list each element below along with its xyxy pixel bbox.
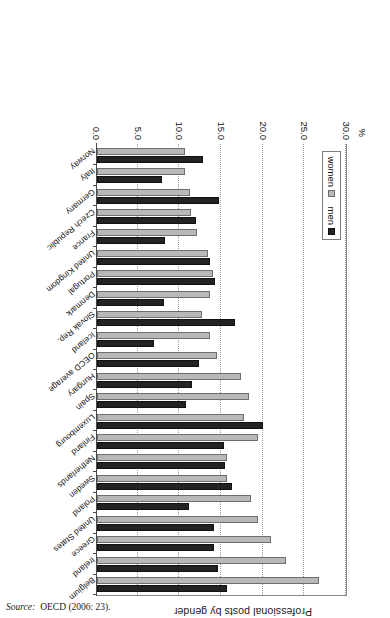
bar-women bbox=[97, 373, 241, 380]
bar-group bbox=[97, 309, 347, 329]
category-label: Italy bbox=[79, 166, 97, 184]
bar-group bbox=[97, 554, 347, 574]
bar-men bbox=[97, 217, 196, 224]
chart-figure: Professional posts by gender NorwayItaly… bbox=[0, 0, 390, 618]
bar-group bbox=[97, 390, 347, 410]
bar-men bbox=[97, 442, 225, 449]
bar-men bbox=[97, 278, 215, 285]
bar-group bbox=[97, 145, 347, 165]
bar-men bbox=[97, 462, 225, 469]
legend-swatch-women bbox=[328, 190, 335, 197]
bar-group bbox=[97, 227, 347, 247]
bar-men bbox=[97, 237, 165, 244]
bar-women bbox=[97, 189, 190, 196]
bars-area bbox=[97, 145, 347, 595]
bar-men bbox=[97, 299, 164, 306]
value-tick-label: 25.0 bbox=[299, 122, 310, 141]
bar-men bbox=[97, 156, 203, 163]
bar-men bbox=[97, 585, 227, 592]
bar-women bbox=[97, 414, 245, 421]
bar-women bbox=[97, 270, 213, 277]
bar-men bbox=[97, 340, 154, 347]
legend-label: men bbox=[326, 207, 337, 225]
bar-men bbox=[97, 258, 210, 265]
bar-women bbox=[97, 291, 210, 298]
bar-men bbox=[97, 197, 220, 204]
value-tick-label: 10.0 bbox=[174, 122, 185, 141]
source-value: OECD (2006: 23). bbox=[35, 602, 110, 612]
bar-women bbox=[97, 250, 208, 257]
value-tick-label: 0.0 bbox=[91, 127, 102, 140]
bar-women bbox=[97, 311, 202, 318]
source-label: Source: bbox=[6, 602, 35, 612]
bar-group bbox=[97, 329, 347, 349]
bar-women bbox=[97, 516, 258, 523]
bar-group bbox=[97, 268, 347, 288]
bar-women bbox=[97, 495, 251, 502]
bar-group bbox=[97, 411, 347, 431]
bar-women bbox=[97, 168, 185, 175]
value-axis-tick-labels: 0.05.010.015.020.025.030.0 bbox=[97, 94, 347, 140]
rotated-figure-container: Professional posts by gender NorwayItaly… bbox=[0, 0, 390, 618]
bar-men bbox=[97, 381, 192, 388]
bar-women bbox=[97, 209, 191, 216]
bar-group bbox=[97, 472, 347, 492]
bar-group bbox=[97, 350, 347, 370]
value-tick-label: 30.0 bbox=[341, 122, 352, 141]
bar-women bbox=[97, 434, 258, 441]
bar-women bbox=[97, 557, 286, 564]
unit-label: % bbox=[357, 129, 368, 137]
bar-men bbox=[97, 319, 235, 326]
bar-men bbox=[97, 360, 200, 367]
legend-swatch-men bbox=[328, 228, 335, 235]
bar-group bbox=[97, 575, 347, 595]
bar-men bbox=[97, 176, 162, 183]
bar-women bbox=[97, 393, 249, 400]
bar-group bbox=[97, 165, 347, 185]
category-label: Belgium bbox=[67, 576, 97, 603]
bar-women bbox=[97, 352, 217, 359]
legend-item-women: women bbox=[326, 156, 337, 197]
bar-group bbox=[97, 247, 347, 267]
bar-women bbox=[97, 475, 227, 482]
bar-women bbox=[97, 229, 197, 236]
legend-item-men: men bbox=[326, 207, 337, 235]
bar-group bbox=[97, 493, 347, 513]
value-tick-label: 20.0 bbox=[258, 122, 269, 141]
bar-men bbox=[97, 401, 186, 408]
bar-men bbox=[97, 524, 214, 531]
value-tick-label: 5.0 bbox=[133, 127, 144, 140]
bar-women bbox=[97, 577, 319, 584]
bar-group bbox=[97, 186, 347, 206]
legend-label: women bbox=[326, 156, 337, 187]
bar-men bbox=[97, 565, 218, 572]
bar-men bbox=[97, 422, 263, 429]
category-axis-labels: NorwayItalyGermanyCzech RepublicFranceUn… bbox=[0, 145, 94, 595]
chart-legend: womenmen bbox=[322, 151, 341, 240]
bar-women bbox=[97, 332, 210, 339]
bar-women bbox=[97, 536, 271, 543]
bar-women bbox=[97, 148, 185, 155]
bar-men bbox=[97, 483, 232, 490]
bar-group bbox=[97, 452, 347, 472]
bar-group bbox=[97, 370, 347, 390]
value-tick-label: 15.0 bbox=[216, 122, 227, 141]
bar-men bbox=[97, 544, 214, 551]
bar-group bbox=[97, 288, 347, 308]
bar-group bbox=[97, 534, 347, 554]
bar-group bbox=[97, 206, 347, 226]
bar-women bbox=[97, 454, 227, 461]
source-note: Source:OECD (2006: 23). bbox=[6, 602, 111, 612]
bar-group bbox=[97, 431, 347, 451]
bar-group bbox=[97, 513, 347, 533]
bar-men bbox=[97, 503, 189, 510]
